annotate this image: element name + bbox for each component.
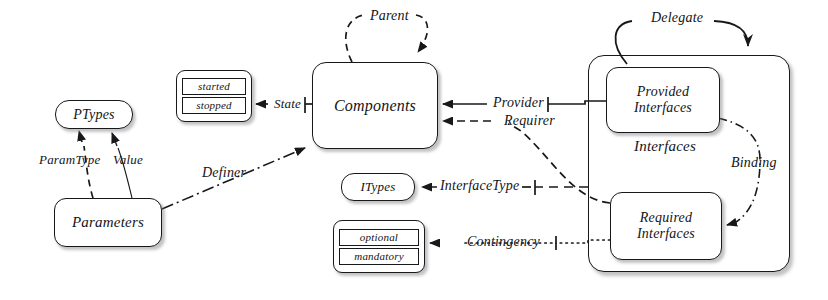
edge-label-state: State <box>274 96 301 112</box>
edge-label-value: Value <box>113 152 143 168</box>
edge-label-delegate: Delegate <box>651 10 703 26</box>
node-ptypes[interactable]: PTypes <box>55 100 133 129</box>
node-required-interfaces-line1: Required <box>640 210 692 226</box>
node-ptypes-label: PTypes <box>73 107 114 123</box>
node-itypes[interactable]: ITypes <box>341 173 415 201</box>
edge-label-contingency: Contingency <box>467 234 540 250</box>
node-required-interfaces[interactable]: Required Interfaces <box>610 192 722 260</box>
node-itypes-label: ITypes <box>361 180 396 195</box>
edge-label-binding: Binding <box>731 155 777 171</box>
edge-label-paramtype: ParamType <box>39 152 101 168</box>
edge-label-provider: Provider <box>493 95 544 111</box>
node-components-label: Components <box>334 97 416 115</box>
node-provided-interfaces[interactable]: Provided Interfaces <box>606 67 720 133</box>
node-required-interfaces-line2: Interfaces <box>637 226 695 242</box>
node-parameters-label: Parameters <box>72 214 144 231</box>
edge-label-requirer: Requirer <box>504 113 555 129</box>
metamodel-diagram: Interfaces PTypes Parameters Components … <box>0 0 828 300</box>
enum-component-state[interactable]: started stopped <box>176 70 252 122</box>
node-parameters[interactable]: Parameters <box>54 198 162 247</box>
enum-value-mandatory[interactable]: mandatory <box>339 248 419 265</box>
node-provided-interfaces-line2: Interfaces <box>634 100 692 116</box>
edge-label-definer: Definer <box>202 165 246 181</box>
enum-value-started[interactable]: started <box>182 78 246 95</box>
interfaces-container-label: Interfaces <box>634 138 696 155</box>
edge-label-interfacetype: InterfaceType <box>440 178 519 194</box>
node-components[interactable]: Components <box>312 62 438 149</box>
edge-label-parent: Parent <box>370 8 409 24</box>
enum-value-optional[interactable]: optional <box>339 229 419 246</box>
node-provided-interfaces-line1: Provided <box>637 84 689 100</box>
enum-contingency-kind[interactable]: optional mandatory <box>333 220 425 273</box>
enum-value-stopped[interactable]: stopped <box>182 97 246 114</box>
